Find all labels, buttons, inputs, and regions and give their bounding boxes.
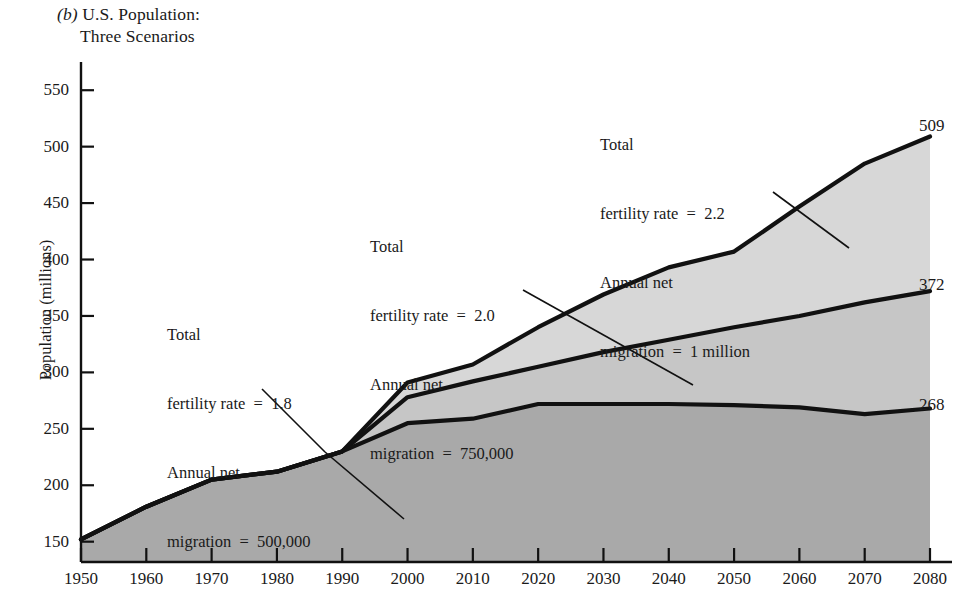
title-line-1: U.S. Population: — [82, 4, 200, 24]
panel-title: (b) U.S. Population:Three Scenarios — [57, 4, 200, 47]
x-tick-label: 2050 — [699, 570, 769, 587]
x-tick-label: 2060 — [764, 570, 834, 587]
end-label-high-scenario: 509 — [919, 117, 945, 134]
y-tick-label: 450 — [17, 194, 69, 211]
annotation-high-line-3: Annual net — [600, 271, 750, 294]
annotation-high-line-2: fertility rate = 2.2 — [600, 202, 750, 225]
annotation-high-line-4: migration = 1 million — [600, 340, 750, 363]
x-tick-label: 2040 — [634, 570, 704, 587]
annotation-low-line-2: fertility rate = 1.8 — [167, 392, 311, 415]
x-tick-label: 1950 — [46, 570, 116, 587]
annotation-low-line-3: Annual net — [167, 461, 311, 484]
title-line-2: Three Scenarios — [57, 26, 200, 48]
annotation-medium-line-1: Total — [370, 235, 514, 258]
y-tick-label: 550 — [17, 81, 69, 98]
population-scenarios-chart: (b) U.S. Population:Three Scenarios Popu… — [0, 0, 972, 604]
x-tick-label: 2030 — [568, 570, 638, 587]
end-label-medium-scenario: 372 — [919, 276, 945, 293]
y-tick-label: 200 — [17, 476, 69, 493]
panel-letter: (b) — [57, 4, 78, 24]
annotation-low-line-1: Total — [167, 323, 311, 346]
annotation-low-scenario: Total fertility rate = 1.8 Annual net mi… — [167, 277, 311, 599]
x-tick-label: 2000 — [373, 570, 443, 587]
y-tick-label: 150 — [17, 533, 69, 550]
y-tick-label: 300 — [17, 363, 69, 380]
annotation-medium-scenario: Total fertility rate = 2.0 Annual net mi… — [370, 189, 514, 511]
annotation-medium-line-2: fertility rate = 2.0 — [370, 304, 514, 327]
x-tick-label: 1990 — [307, 570, 377, 587]
x-tick-label: 2070 — [830, 570, 900, 587]
x-tick-label: 2010 — [438, 570, 508, 587]
y-tick-label: 350 — [17, 307, 69, 324]
annotation-high-line-1: Total — [600, 133, 750, 156]
end-label-low-scenario: 268 — [919, 396, 945, 413]
y-tick-label: 400 — [17, 251, 69, 268]
annotation-low-line-4: migration = 500,000 — [167, 530, 311, 553]
y-tick-label: 500 — [17, 138, 69, 155]
annotation-high-scenario: Total fertility rate = 2.2 Annual net mi… — [600, 87, 750, 409]
y-axis-tick-marks — [81, 90, 94, 541]
annotation-medium-line-4: migration = 750,000 — [370, 442, 514, 465]
x-tick-label: 2080 — [895, 570, 965, 587]
annotation-medium-line-3: Annual net — [370, 373, 514, 396]
y-tick-label: 250 — [17, 420, 69, 437]
x-tick-label: 2020 — [503, 570, 573, 587]
